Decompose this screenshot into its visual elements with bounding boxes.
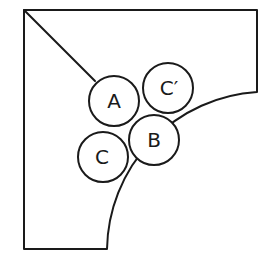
circle-b-label: B: [147, 128, 161, 152]
circle-a-label: A: [107, 89, 121, 113]
circle-a: A: [89, 76, 139, 126]
circle-c-prime: C′: [143, 63, 193, 113]
circle-b: B: [129, 115, 179, 165]
circle-c-label: C: [95, 145, 109, 169]
circle-packing-diagram: A C′ C B: [0, 0, 276, 264]
diagonal-line: [24, 10, 95, 81]
circle-c: C: [78, 132, 128, 182]
circle-c-prime-label: C′: [160, 76, 179, 100]
